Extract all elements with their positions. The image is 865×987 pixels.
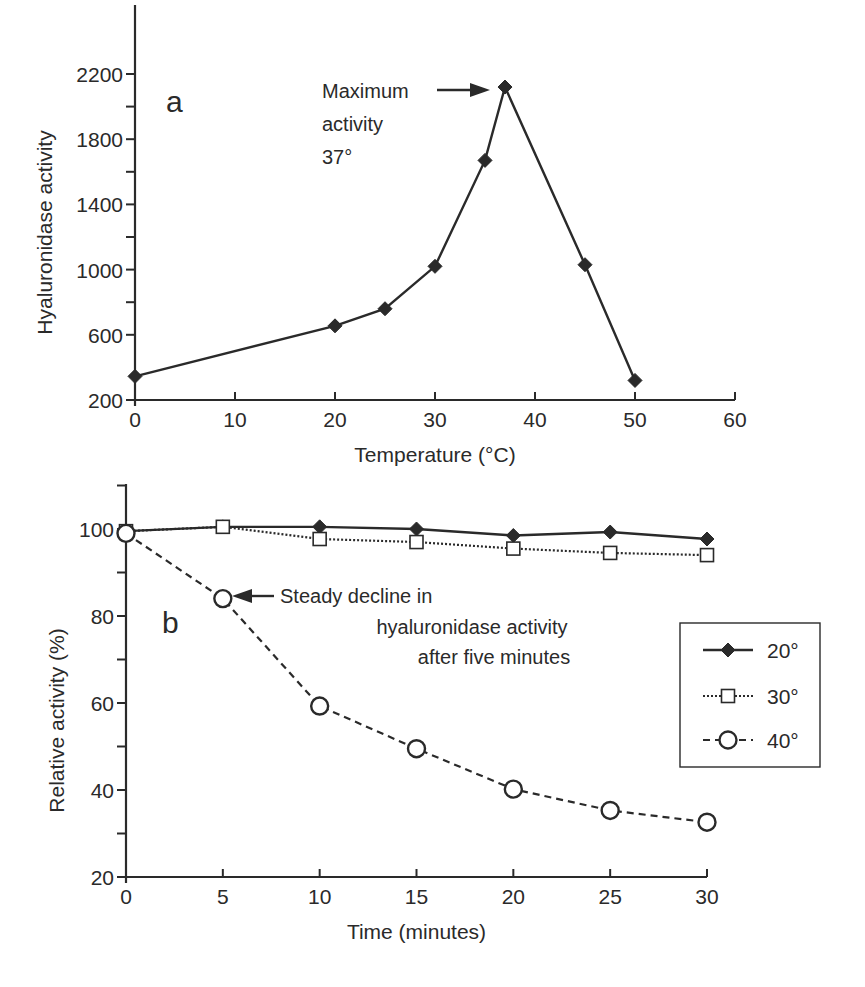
figure: 01020304050602006001000140018002200Tempe… — [0, 0, 865, 987]
x-tick-label: 60 — [723, 408, 746, 431]
y-tick-label: 20 — [91, 866, 114, 889]
panel-label-b: b — [162, 606, 179, 639]
y-tick-label: 1000 — [76, 259, 123, 282]
legend: 20°30°40° — [680, 623, 820, 767]
y-tick-label: 200 — [88, 389, 123, 412]
diamond-marker — [506, 529, 520, 543]
x-tick-label: 10 — [308, 885, 331, 908]
x-tick-label: 20 — [502, 885, 525, 908]
y-tick-label: 1800 — [76, 128, 123, 151]
x-tick-label: 50 — [623, 408, 646, 431]
y-tick-label: 600 — [88, 324, 123, 347]
square-marker — [216, 520, 229, 533]
annotation-line-2: activity — [322, 113, 383, 135]
diamond-marker — [478, 153, 492, 167]
arrow-head-icon — [470, 83, 490, 97]
y-tick-label: 40 — [91, 779, 114, 802]
legend-label: 40° — [767, 729, 799, 752]
annotation-line-3: after five minutes — [418, 646, 570, 668]
x-tick-label: 0 — [129, 408, 141, 431]
series-line — [135, 87, 635, 380]
y-tick-label: 60 — [91, 692, 114, 715]
series-line — [126, 533, 707, 822]
y-tick-label: 1400 — [76, 193, 123, 216]
y-tick-label: 2200 — [76, 63, 123, 86]
panel-b-time-chart: 05101520253020406080100Time (minutes)Rel… — [45, 484, 820, 943]
diamond-marker — [603, 525, 617, 539]
x-tick-label: 30 — [695, 885, 718, 908]
legend-label: 30° — [767, 685, 799, 708]
diamond-marker — [328, 319, 342, 333]
x-tick-label: 40 — [523, 408, 546, 431]
x-tick-label: 5 — [217, 885, 229, 908]
y-tick-label: 100 — [79, 518, 114, 541]
x-tick-label: 30 — [423, 408, 446, 431]
diamond-marker — [410, 522, 424, 536]
square-marker — [604, 546, 617, 559]
circle-marker — [602, 802, 619, 819]
series-Hyaluronidaseactivity — [128, 80, 642, 387]
x-tick-label: 20 — [323, 408, 346, 431]
y-tick-label: 80 — [91, 605, 114, 628]
diamond-marker — [498, 80, 512, 94]
annotation-line-1: Steady decline in — [280, 585, 432, 607]
circle-marker — [505, 781, 522, 798]
annotation-line-1: Maximum — [322, 80, 409, 102]
panel-label-a: a — [166, 85, 183, 118]
x-tick-label: 25 — [598, 885, 621, 908]
legend-label: 20° — [767, 639, 799, 662]
circle-marker — [118, 525, 135, 542]
x-axis-title: Temperature (°C) — [354, 443, 515, 466]
square-marker — [701, 549, 714, 562]
circle-marker — [311, 698, 328, 715]
square-marker — [410, 536, 423, 549]
x-tick-label: 10 — [223, 408, 246, 431]
diamond-marker — [628, 373, 642, 387]
arrow-head-icon — [232, 589, 252, 603]
diamond-marker — [700, 532, 714, 546]
x-axis-title: Time (minutes) — [347, 920, 486, 943]
annotation-line-3: 37° — [322, 146, 352, 168]
square-marker — [507, 542, 520, 555]
x-tick-label: 0 — [120, 885, 132, 908]
annotation-line-2: hyaluronidase activity — [376, 616, 567, 638]
circle-marker — [720, 732, 737, 749]
circle-marker — [408, 740, 425, 757]
panel-a-temperature-chart: 01020304050602006001000140018002200Tempe… — [33, 5, 747, 466]
circle-marker — [214, 590, 231, 607]
square-marker — [722, 690, 735, 703]
y-axis-title: Relative activity (%) — [45, 628, 68, 812]
y-axis-title: Hyaluronidase activity — [33, 130, 56, 335]
diamond-marker — [578, 258, 592, 272]
diamond-marker — [128, 369, 142, 383]
legend-box — [680, 623, 820, 767]
chart-canvas: 01020304050602006001000140018002200Tempe… — [0, 0, 865, 987]
circle-marker — [699, 814, 716, 831]
x-tick-label: 15 — [405, 885, 428, 908]
square-marker — [313, 533, 326, 546]
series-40 — [118, 525, 716, 831]
